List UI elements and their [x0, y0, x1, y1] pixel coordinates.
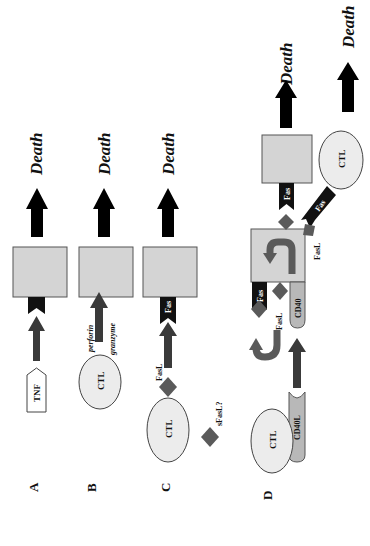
death-arrow-c [157, 188, 179, 237]
fas-label-d-neighbour: Fas [283, 188, 292, 200]
ctl-label-d-killed: CTL [337, 149, 347, 168]
death-arrow-b [93, 188, 115, 237]
panel-d: D Death Fas Death CTL Fas FasL Fas FasL [249, 6, 363, 501]
death-label-b: Death [95, 133, 114, 177]
fas-label-c: Fas [164, 301, 173, 313]
target-cell-d-central [251, 229, 305, 282]
granzyme-label: granzyme [108, 323, 117, 356]
tnf-label: TNF [32, 383, 42, 402]
target-cell-d-neighbour [262, 135, 312, 183]
death-label-d-ctl: Death [339, 6, 358, 50]
death-label-d-target: Death [277, 43, 296, 87]
fasl-label-d-right: FasL [313, 243, 322, 260]
panel-a-label: A [26, 482, 41, 492]
death-label-c: Death [159, 133, 178, 177]
death-arrow-d-target [275, 80, 297, 128]
panel-c: C Death Fas FasL CTL sFasL? [143, 133, 224, 493]
ctl-label-b: CTL [96, 371, 106, 390]
fasl-diamond-d-bottom [272, 282, 288, 300]
uturn-arrowhead-d-outside [249, 338, 263, 350]
target-cell-a [13, 247, 67, 297]
cd40l-label: CD40L [293, 415, 302, 440]
sfasl-label: sFasL? [215, 402, 224, 426]
fasl-label-d-self: FasL [275, 313, 284, 330]
fasl-label-c: FasL [155, 364, 164, 381]
panel-c-label: C [158, 483, 173, 492]
ctl-label-c: CTL [164, 419, 174, 438]
signal-arrow-c [159, 322, 177, 368]
tnf-receptor [28, 297, 45, 314]
apoptosis-mechanisms-diagram: A Death TNF B Death perforin granzyme CT… [0, 0, 370, 546]
fasl-diamond-d-right [303, 224, 315, 236]
target-cell-b [79, 247, 133, 297]
signal-arrow-d [288, 338, 306, 388]
fasl-diamond-d-top [278, 214, 294, 230]
cd40-label: CD40 [294, 298, 303, 318]
death-arrow-d-ctl [337, 62, 359, 112]
panel-b: B Death perforin granzyme CTL [79, 133, 133, 493]
fas-label-d-self: Fas [256, 290, 265, 302]
panel-b-label: B [84, 483, 99, 492]
target-cell-c [143, 247, 197, 297]
panel-d-label: D [260, 491, 275, 500]
death-label-a: Death [27, 133, 46, 177]
perforin-label: perforin [86, 324, 95, 353]
panel-a: A Death TNF [13, 133, 67, 493]
death-arrow-a [26, 188, 48, 237]
signal-arrow-a [28, 316, 45, 361]
sfasl-diamond [201, 427, 219, 447]
ctl-label-d: CTL [268, 430, 278, 449]
